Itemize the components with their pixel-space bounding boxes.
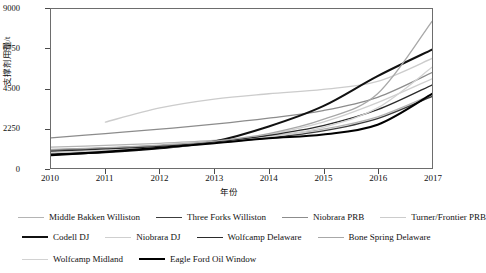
legend-label: Three Forks Williston (187, 212, 266, 222)
x-axis-tick-label: 2017 (413, 174, 453, 183)
plot-area (50, 8, 433, 169)
x-axis-tick-mark (324, 169, 325, 174)
legend-color-swatch (139, 258, 165, 260)
chart-legend: Middle Bakken WillistonThree Forks Willi… (0, 205, 458, 273)
legend-color-swatch (22, 236, 48, 238)
series-lines (51, 9, 432, 168)
legend-item[interactable]: Turner/Frontier PRB (380, 212, 486, 222)
legend-color-swatch (318, 237, 344, 238)
y-axis-tick-mark (45, 169, 50, 170)
legend-color-swatch (156, 217, 182, 218)
x-axis-tick-label: 2014 (249, 174, 289, 183)
y-axis-tick-label: 4500 (0, 84, 20, 93)
legend-item[interactable]: Eagle Ford Oil Window (139, 254, 256, 264)
x-axis-tick-label: 2016 (358, 174, 398, 183)
legend-color-swatch (18, 217, 44, 218)
series-line (105, 58, 432, 122)
y-axis-tick-label: 9000 (0, 4, 20, 13)
legend-color-swatch (282, 217, 308, 218)
y-axis-tick-label: 0 (0, 165, 20, 174)
y-axis-tick-label: 6750 (0, 44, 20, 53)
legend-label: Turner/Frontier PRB (411, 212, 486, 222)
legend-item[interactable]: Codell DJ (22, 232, 89, 242)
legend-label: Niobrara PRB (313, 212, 364, 222)
x-axis-tick-mark (378, 169, 379, 174)
legend-color-swatch (22, 259, 48, 260)
series-line (51, 96, 432, 150)
x-axis-tick-mark (269, 169, 270, 174)
legend-item[interactable]: Middle Bakken Williston (18, 212, 140, 222)
legend-label: Wolfcamp Midland (53, 254, 123, 264)
x-axis-tick-label: 2015 (304, 174, 344, 183)
legend-label: Eagle Ford Oil Window (170, 254, 256, 264)
y-axis-tick-label: 2250 (0, 124, 20, 133)
legend-item[interactable]: Three Forks Williston (156, 212, 266, 222)
x-axis-tick-label: 2012 (139, 174, 179, 183)
x-axis-tick-label: 2013 (194, 174, 234, 183)
legend-item[interactable]: Niobrara PRB (282, 212, 364, 222)
legend-item[interactable]: Wolfcamp Midland (22, 254, 123, 264)
x-axis-tick-mark (159, 169, 160, 174)
legend-color-swatch (380, 217, 406, 218)
x-axis-tick-mark (105, 169, 106, 174)
legend-color-swatch (105, 237, 131, 238)
series-line (51, 21, 432, 149)
legend-label: Wolfcamp Delaware (228, 232, 302, 242)
legend-row: Wolfcamp MidlandEagle Ford Oil Window (0, 249, 458, 269)
legend-row: Middle Bakken WillistonThree Forks Willi… (0, 207, 458, 227)
x-axis-tick-label: 2010 (30, 174, 70, 183)
legend-row: Codell DJNiobrara DJWolfcamp DelawareBon… (0, 227, 458, 247)
legend-label: Niobrara DJ (136, 232, 180, 242)
x-axis-tick-label: 2011 (85, 174, 125, 183)
legend-item[interactable]: Niobrara DJ (105, 232, 180, 242)
legend-label: Bone Spring Delaware (349, 232, 431, 242)
legend-label: Middle Bakken Williston (49, 212, 140, 222)
x-axis-tick-mark (214, 169, 215, 174)
legend-label: Codell DJ (53, 232, 89, 242)
legend-item[interactable]: Bone Spring Delaware (318, 232, 431, 242)
chart-area: 支撑剂用量/t 02250450067509000 20102011201220… (0, 0, 458, 205)
legend-color-swatch (197, 237, 223, 238)
legend-item[interactable]: Wolfcamp Delaware (197, 232, 302, 242)
x-axis-label: 年份 (199, 188, 259, 197)
